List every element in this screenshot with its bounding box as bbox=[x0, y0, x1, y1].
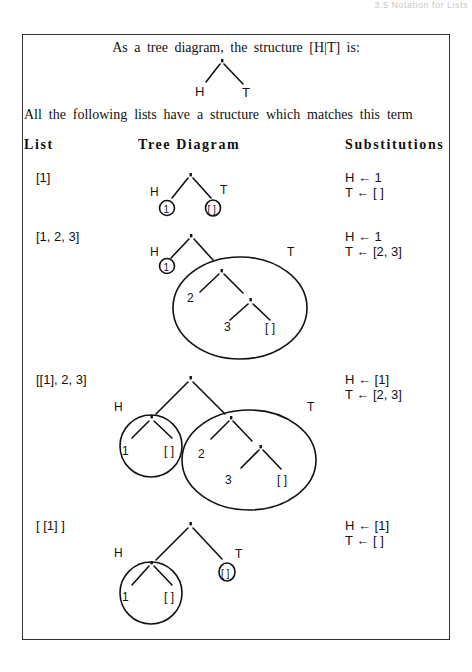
row-3-root-dot bbox=[190, 376, 192, 379]
row-2-node-dot bbox=[221, 269, 223, 272]
header-tree bbox=[206, 64, 243, 84]
row-2-h-label: H bbox=[150, 245, 159, 259]
row-2-root-dot bbox=[190, 234, 192, 237]
row-3-value-2: 2 bbox=[198, 447, 205, 461]
row-4-tree bbox=[120, 528, 235, 624]
row-1-h-label: H bbox=[150, 185, 159, 199]
row-1-head-value: 1 bbox=[164, 204, 170, 215]
row-2-value-3: 3 bbox=[224, 320, 231, 334]
row-3-head-1: 1 bbox=[122, 444, 129, 458]
row-3-t-label: T bbox=[307, 400, 315, 414]
row-3-h-label: H bbox=[114, 400, 123, 414]
row-3-head-nil: [ ] bbox=[164, 444, 174, 458]
row-4-node-dot bbox=[151, 561, 153, 564]
row-4-head-1: 1 bbox=[122, 590, 129, 604]
row-1-root-dot bbox=[190, 173, 192, 176]
row-2-nil: [ ] bbox=[265, 321, 275, 335]
row-2-t-label: T bbox=[287, 245, 295, 259]
row-3-value-3: 3 bbox=[225, 473, 232, 487]
row-4-head-nil: [ ] bbox=[164, 590, 174, 604]
tree-diagrams: H T H T 1 [ ] H T 1 2 3 [ ] H T 1 [ ] 2 … bbox=[0, 0, 472, 672]
row-3-node-dot bbox=[260, 445, 262, 448]
row-4-t-label: T bbox=[235, 547, 243, 561]
header-root-dot bbox=[221, 59, 223, 62]
row-2-tree bbox=[160, 239, 308, 359]
row-2-value-2: 2 bbox=[187, 291, 194, 305]
row-4-h-label: H bbox=[114, 546, 123, 560]
row-4-root-dot bbox=[190, 522, 192, 525]
row-2-tail-ellipse bbox=[173, 257, 307, 359]
node-dots bbox=[151, 59, 262, 564]
header-tree-h: H bbox=[195, 84, 204, 99]
row-1-tail-value: [ ] bbox=[208, 204, 217, 215]
row-1-t-label: T bbox=[220, 183, 228, 197]
row-2-node-dot bbox=[250, 298, 252, 301]
header-tree-t: T bbox=[242, 85, 250, 100]
row-3-tree bbox=[120, 382, 316, 510]
row-4-tail-value: [ ] bbox=[221, 568, 230, 579]
row-3-nil: [ ] bbox=[277, 473, 287, 487]
row-3-node-dot bbox=[230, 416, 232, 419]
row-3-node-dot bbox=[151, 415, 153, 418]
row-2-head-value: 1 bbox=[164, 262, 170, 273]
